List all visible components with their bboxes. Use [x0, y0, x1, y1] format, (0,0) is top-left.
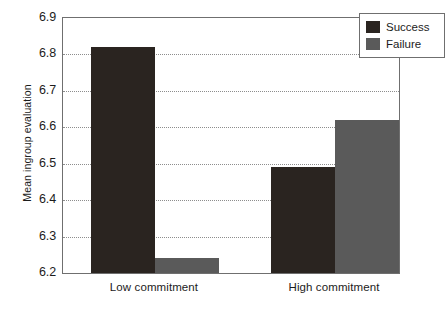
x-axis-tick-label: Low commitment — [110, 281, 198, 293]
legend-item-failure: Failure — [366, 36, 437, 52]
x-axis-tick-label: High commitment — [289, 281, 380, 293]
plot-area — [62, 17, 400, 274]
legend-label: Failure — [386, 38, 421, 50]
y-axis-tick-label: 6.7 — [18, 83, 56, 97]
bar-chart: Mean ingroup evaluation 6.96.86.76.66.56… — [0, 0, 448, 311]
bar-failure-low — [155, 258, 219, 273]
y-axis-tick-label: 6.3 — [18, 229, 56, 243]
legend: SuccessFailure — [359, 13, 445, 58]
legend-label: Success — [386, 21, 429, 33]
legend-swatch-icon — [366, 21, 380, 33]
bar-success-high — [271, 167, 335, 273]
legend-swatch-icon — [366, 38, 380, 50]
y-axis-tick-label: 6.2 — [18, 265, 56, 279]
legend-item-success: Success — [366, 19, 437, 35]
y-axis-tick-label: 6.8 — [18, 46, 56, 60]
y-axis-tick-label: 6.9 — [18, 10, 56, 24]
y-axis-tick-label: 6.5 — [18, 156, 56, 170]
y-axis-tick-label: 6.6 — [18, 119, 56, 133]
y-axis-tick-label: 6.4 — [18, 192, 56, 206]
bar-failure-high — [335, 120, 399, 273]
bar-success-low — [91, 47, 155, 273]
